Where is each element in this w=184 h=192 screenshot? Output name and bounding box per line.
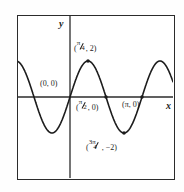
graph-canvas bbox=[0, 0, 184, 192]
label-pi-root: (π, 0) bbox=[122, 101, 139, 109]
fraction-denominator: 4 bbox=[93, 144, 97, 151]
fraction-numerator: π bbox=[77, 40, 81, 47]
graph-figure: y x (π4, 2) (0, 0) (π2, 0) (π, 0) (3π4, … bbox=[0, 0, 184, 192]
fraction-numerator: π bbox=[79, 99, 83, 106]
point-marker-maximum bbox=[86, 59, 89, 62]
label-origin-point: (0, 0) bbox=[40, 80, 57, 88]
label-maximum-tail: , 2) bbox=[86, 44, 97, 53]
label-maximum-point: (π4, 2) bbox=[74, 42, 96, 53]
label-half-tail: , 0) bbox=[88, 103, 99, 112]
fraction-denominator: 2 bbox=[83, 104, 87, 111]
x-axis-label: x bbox=[166, 101, 171, 111]
label-minimum-tail: , −2) bbox=[102, 143, 117, 152]
fraction-pi-over-4: π4 bbox=[77, 42, 86, 51]
point-marker-minimum bbox=[122, 131, 125, 134]
fraction-pi-over-2: π2 bbox=[79, 101, 88, 110]
label-half-pi-root: (π2, 0) bbox=[76, 101, 98, 112]
y-axis-label: y bbox=[59, 19, 63, 29]
fraction-denominator: 4 bbox=[81, 45, 85, 52]
point-marker-half-pi-root bbox=[104, 95, 107, 98]
label-minimum-point: (3π4, −2) bbox=[86, 141, 117, 152]
point-marker-pi-root bbox=[140, 95, 143, 98]
sine-curve-extension bbox=[7, 78, 18, 97]
fraction-3pi-over-4: 3π4 bbox=[89, 141, 102, 150]
